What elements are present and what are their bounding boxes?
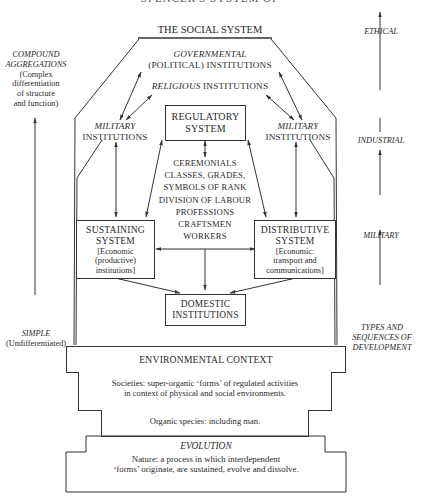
evolution-line-2: ‘forms’ originate, are sustained, evolve… <box>66 464 346 474</box>
evolution-box: EVOLUTION Nature: a process in which int… <box>66 441 346 475</box>
social-system-diagram: SPENCER'S SYSTEM OF ANALYSIS <box>0 0 422 498</box>
evolution-line-1: Nature: a process in which interdependen… <box>66 454 346 464</box>
evolution-box-outline <box>0 0 422 498</box>
evolution-title: EVOLUTION <box>66 441 346 452</box>
